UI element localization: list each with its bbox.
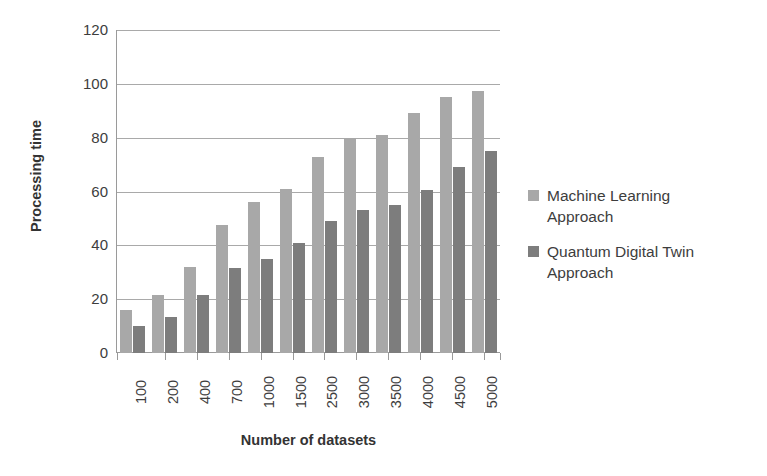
x-axis-tick-label: 2500 (324, 376, 340, 408)
x-axis-label-cell: 4500 (436, 362, 468, 418)
x-axis-tick-label: 3000 (356, 376, 372, 408)
x-axis-tick-mark (197, 353, 198, 360)
x-axis-tick-cell (149, 353, 181, 360)
x-axis-tick-label: 400 (197, 380, 213, 404)
x-axis-tick-mark (388, 353, 389, 360)
x-axis-tick-label: 5000 (484, 376, 500, 408)
x-axis-tick-cell (404, 353, 436, 360)
bar-group (372, 30, 404, 353)
x-axis-label-cell: 3000 (340, 362, 372, 418)
x-axis-tick-cell (245, 353, 277, 360)
x-axis-label-cell: 200 (149, 362, 181, 418)
x-axis-tick-label: 1000 (261, 376, 277, 408)
bar-group (468, 30, 500, 353)
x-axis-tick-label: 200 (165, 380, 181, 404)
y-axis-title: Processing time (28, 96, 44, 256)
bar (344, 138, 356, 353)
x-axis-tick-label: 4500 (452, 376, 468, 408)
bar (440, 97, 452, 353)
x-axis-tick-cell (372, 353, 404, 360)
bar (293, 243, 305, 353)
bar (421, 190, 433, 353)
y-axis-tick-label: 120 (62, 22, 108, 37)
bar-group (436, 30, 468, 353)
x-axis-tick-label: 100 (133, 380, 149, 404)
y-axis-tick-label: 40 (62, 237, 108, 252)
x-axis-tick-mark (261, 353, 262, 360)
bar (453, 167, 465, 353)
bar-chart: Processing time 020406080100120 10020040… (0, 0, 767, 476)
bar (261, 259, 273, 353)
y-axis-tick-label: 80 (62, 130, 108, 145)
x-axis-tick-mark (420, 353, 421, 360)
x-axis-tick-mark (324, 353, 325, 360)
bar-group (213, 30, 245, 353)
bar (165, 317, 177, 353)
x-axis-tick-label: 4000 (420, 376, 436, 408)
bar (312, 157, 324, 353)
x-axis-tick-cell (309, 353, 341, 360)
x-axis-label-cell: 400 (181, 362, 213, 418)
bar (120, 310, 132, 353)
x-axis-tick-mark (500, 353, 501, 360)
bar (280, 189, 292, 353)
bar (248, 202, 260, 353)
bar (376, 135, 388, 353)
bar (216, 225, 228, 353)
x-axis-label-cell: 1000 (245, 362, 277, 418)
bar (485, 151, 497, 353)
x-axis-tick-cell (468, 353, 500, 360)
x-axis-label-cell: 700 (213, 362, 245, 418)
y-axis-tick-label: 0 (62, 345, 108, 360)
legend-label: Quantum Digital Twin Approach (547, 242, 729, 284)
bar (229, 268, 241, 353)
x-axis-tick-label: 700 (229, 380, 245, 404)
legend-item[interactable]: Machine Learning Approach (528, 186, 763, 228)
x-axis-tick-label: 1500 (293, 376, 309, 408)
x-axis-tick-cell (340, 353, 372, 360)
x-axis-tick-mark (452, 353, 453, 360)
bar-group (181, 30, 213, 353)
legend-item[interactable]: Quantum Digital Twin Approach (528, 242, 763, 284)
x-axis-tick-cell (181, 353, 213, 360)
x-axis-label-cell: 2500 (309, 362, 341, 418)
x-axis-label-cell: 4000 (404, 362, 436, 418)
x-axis-tick-cell (436, 353, 468, 360)
bar (184, 267, 196, 353)
bar (197, 295, 209, 353)
y-axis-tick-label: 20 (62, 291, 108, 306)
bar-group (404, 30, 436, 353)
y-axis-tick-label: 100 (62, 76, 108, 91)
legend-swatch-icon (528, 246, 539, 257)
bar (133, 326, 145, 353)
bar (389, 205, 401, 353)
x-axis-tick-cell (277, 353, 309, 360)
x-axis-label-cell: 3500 (372, 362, 404, 418)
bar (152, 295, 164, 353)
legend-label: Machine Learning Approach (547, 186, 729, 228)
chart-legend: Machine Learning ApproachQuantum Digital… (528, 186, 763, 298)
x-axis-label-cell: 1500 (277, 362, 309, 418)
bar-group (277, 30, 309, 353)
bar-group (309, 30, 341, 353)
x-axis-tick-mark (293, 353, 294, 360)
x-axis-label-cell: 5000 (468, 362, 500, 418)
x-axis-tick-marks (117, 353, 500, 360)
legend-swatch-icon (528, 190, 539, 201)
x-axis-tick-mark (229, 353, 230, 360)
x-axis-label-cell: 100 (117, 362, 149, 418)
x-axis-tick-mark (117, 353, 118, 360)
bar-group (340, 30, 372, 353)
y-axis-tick-labels: 020406080100120 (58, 0, 108, 476)
x-axis-tick-cell (213, 353, 245, 360)
y-axis-tick-label: 60 (62, 184, 108, 199)
plot-area (117, 30, 500, 353)
bar (325, 221, 337, 353)
bar (357, 210, 369, 353)
x-axis-tick-labels: 1002004007001000150025003000350040004500… (117, 362, 500, 418)
bar-group (245, 30, 277, 353)
x-axis-tick-cell (117, 353, 149, 360)
bar (472, 91, 484, 353)
x-axis-title: Number of datasets (117, 432, 500, 448)
bar-group (117, 30, 149, 353)
